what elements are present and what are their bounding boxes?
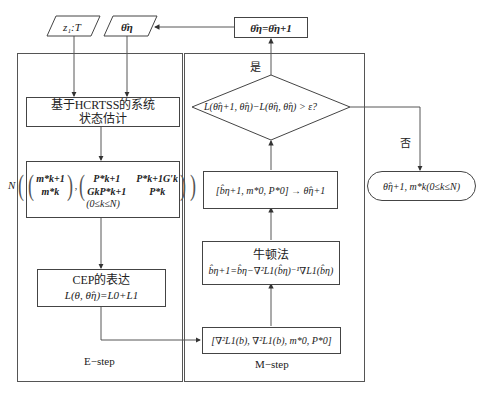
convergence-decision: L(θ̂η+1, θ̂η)−L(θ̂η, θ̂η) > ε? — [204, 101, 317, 112]
state-estimation-line1: 基于HCRTSS的系统 — [51, 98, 156, 112]
newton-title: 牛顿法 — [253, 247, 289, 263]
cep-title: CEP的表达 — [72, 273, 130, 288]
state-estimation-box: 基于HCRTSS的系统 状态估计 — [26, 97, 180, 127]
assemble-theta-box: [b̂η+1, m*0, P*0] → θ̂η+1 — [203, 171, 338, 209]
update-theta-box: θ̂η=θ̂η+1 — [234, 17, 308, 38]
k-range: (0≤k≤N) — [86, 198, 120, 209]
distribution-formula: N (( m*k+1 m*k ),( P*k+1 P*k+1G′k GkP*k+… — [8, 170, 198, 200]
cep-formula: L(θ, θ̂η)=L0+L1 — [65, 288, 138, 303]
theta-eta-input: θ̂η — [121, 21, 133, 33]
observations-input: z₁:T — [63, 21, 81, 33]
mean-vector: m*k+1 m*k — [36, 173, 64, 197]
no-label: 否 — [400, 134, 411, 150]
m-step-label: M−step — [255, 358, 289, 370]
distribution-box: N (( m*k+1 m*k ),( P*k+1 P*k+1G′k GkP*k+… — [26, 161, 180, 218]
e-step-label: E−step — [84, 355, 115, 367]
newton-formula: b̂η+1=b̂η−∇²L1(b̂η)⁻¹∇L1(b̂η) — [209, 263, 334, 279]
gradient-box: [∇²L1(b), ∇²L1(b), m*0, P*0] — [202, 327, 341, 354]
yes-label: 是 — [250, 58, 261, 74]
normal-symbol: N — [8, 179, 15, 191]
newton-method-box: 牛顿法 b̂η+1=b̂η−∇²L1(b̂η)⁻¹∇L1(b̂η) — [202, 241, 340, 285]
state-estimation-line2: 状态估计 — [79, 112, 127, 126]
cep-box: CEP的表达 L(θ, θ̂η)=L0+L1 — [37, 269, 166, 307]
covariance-matrix: P*k+1 P*k+1G′k GkP*k+1 P*k — [87, 173, 178, 197]
output-terminal: θ̂η+1, m*k(0≤k≤N) — [367, 171, 476, 201]
